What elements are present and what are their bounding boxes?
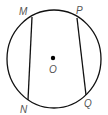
chord-pq <box>77 18 86 95</box>
circle-diagram: M P O N Q <box>0 0 108 115</box>
center-dot <box>51 56 55 60</box>
label-p: P <box>76 5 83 16</box>
label-o: O <box>49 64 57 75</box>
label-q: Q <box>84 98 92 109</box>
label-m: M <box>19 6 28 17</box>
label-n: N <box>20 104 28 115</box>
chord-mn <box>28 17 32 100</box>
